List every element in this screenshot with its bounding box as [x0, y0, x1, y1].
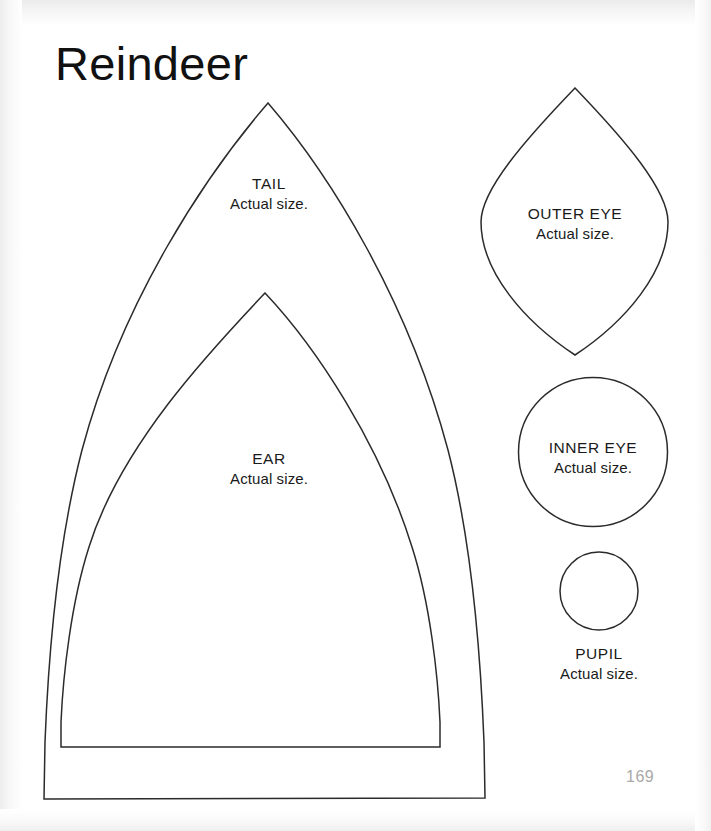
pattern-label-ear: EAR Actual size. [196, 449, 342, 489]
pattern-shapes-canvas [0, 0, 711, 831]
pattern-note-inner-eye: Actual size. [520, 458, 666, 478]
pattern-label-pupil: PUPIL Actual size. [526, 644, 672, 684]
pattern-name-outer-eye: OUTER EYE [502, 204, 648, 224]
pattern-label-outer-eye: OUTER EYE Actual size. [502, 204, 648, 244]
pattern-note-ear: Actual size. [196, 469, 342, 489]
page-number: 169 [626, 768, 654, 786]
pattern-name-tail: TAIL [196, 174, 342, 194]
pattern-label-inner-eye: INNER EYE Actual size. [520, 438, 666, 478]
pattern-note-tail: Actual size. [196, 194, 342, 214]
pupil-pattern-outline [560, 552, 638, 630]
pattern-name-ear: EAR [196, 449, 342, 469]
pattern-name-pupil: PUPIL [526, 644, 672, 664]
pattern-note-pupil: Actual size. [526, 664, 672, 684]
pattern-label-tail: TAIL Actual size. [196, 174, 342, 214]
pattern-name-inner-eye: INNER EYE [520, 438, 666, 458]
pattern-page: Reindeer TAIL Actual size. EAR Actual si… [0, 0, 711, 831]
pattern-note-outer-eye: Actual size. [502, 224, 648, 244]
